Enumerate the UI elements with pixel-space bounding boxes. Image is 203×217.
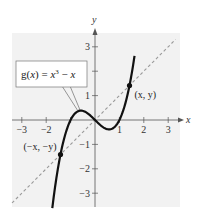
x-tick-label: 3 <box>166 124 171 135</box>
y-tick-label: −2 <box>79 163 90 174</box>
function-graph: −3−212331−1−2−3 (x, y)(−x, −y) g(x) = x3… <box>0 0 203 217</box>
x-tick-label: 2 <box>141 124 146 135</box>
x-axis-arrow-icon <box>178 118 184 123</box>
point-label: (−x, −y) <box>24 141 57 153</box>
y-axis-arrow-icon <box>93 28 98 35</box>
x-axis-label: x <box>185 114 191 125</box>
marked-point <box>127 83 132 88</box>
y-tick-label: −1 <box>79 139 90 150</box>
x-tick-label: −3 <box>16 124 27 135</box>
x-tick-label: 1 <box>117 124 122 135</box>
y-axis-label: y <box>91 14 97 25</box>
y-tick-label: −3 <box>79 188 90 199</box>
x-tick-label: −2 <box>41 124 52 135</box>
point-label: (x, y) <box>135 89 157 101</box>
marked-point <box>58 152 63 157</box>
function-label: g(x) = x3 − x <box>21 68 76 81</box>
y-tick-label: 3 <box>85 41 90 52</box>
y-tick-label: 1 <box>85 90 90 101</box>
